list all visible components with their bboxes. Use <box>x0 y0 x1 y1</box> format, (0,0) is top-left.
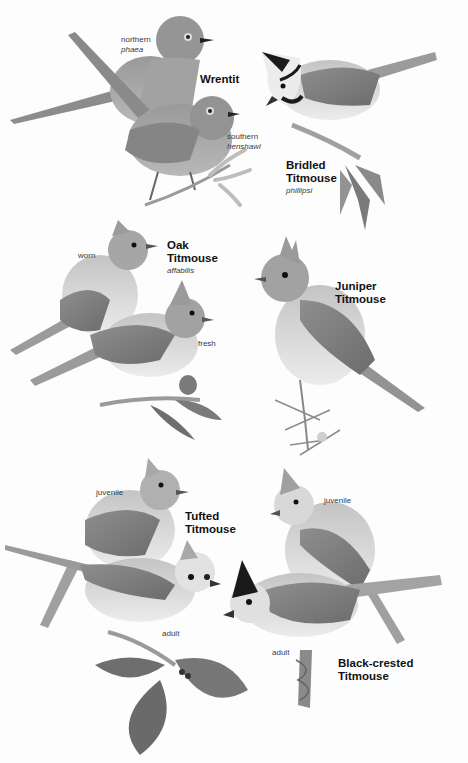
bridled-titmouse-illustration <box>262 52 437 230</box>
wrentit-title: Wrentit <box>200 73 239 86</box>
bird-illustrations <box>0 0 468 763</box>
bridled-titmouse-title: Bridled Titmouse phillipsi <box>286 159 337 196</box>
oak-titmouse-worn-label: worn <box>78 251 95 261</box>
tufted-titmouse-juvenile-label: juvenile <box>96 488 123 498</box>
black-crested-titmouse-juvenile-label: juvenile <box>324 496 351 506</box>
oak-titmouse-scientific: affabilis <box>167 265 218 276</box>
oak-titmouse-title: Oak Titmouse affabilis <box>167 239 218 276</box>
oak-titmouse-fresh-label: fresh <box>198 339 216 349</box>
tufted-titmouse-adult-illustration <box>5 540 248 755</box>
black-crested-titmouse-adult-illustration <box>223 560 442 708</box>
black-crested-titmouse-title: Black-crested Titmouse <box>338 657 413 683</box>
field-guide-plate: northern phaea Wrentit southern henshawi… <box>0 0 468 763</box>
bridled-titmouse-scientific: phillipsi <box>286 185 337 196</box>
black-crested-titmouse-adult-label: adult <box>272 648 289 658</box>
wrentit-northern-label: northern phaea <box>121 35 151 55</box>
tufted-titmouse-title: Tufted Titmouse <box>185 510 236 536</box>
tufted-titmouse-adult-label: adult <box>162 629 179 639</box>
juniper-titmouse-title: Juniper Titmouse <box>335 280 386 306</box>
wrentit-southern-label: southern henshawi <box>227 132 261 152</box>
juniper-titmouse-illustration <box>254 236 425 455</box>
